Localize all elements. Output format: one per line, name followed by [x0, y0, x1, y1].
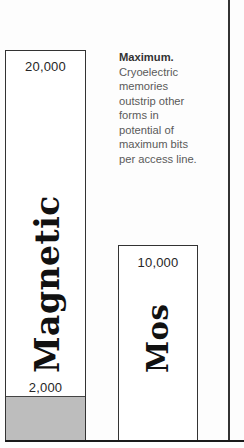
magnetic-label: Magnetic — [28, 195, 67, 373]
right-divider-line — [228, 0, 230, 441]
magnetic-min-fill — [6, 396, 85, 441]
bar-magnetic: 20,000 Magnetic 2,000 — [5, 50, 86, 441]
annotation-line: potential of — [119, 123, 227, 138]
annotation-line: per access line. — [119, 152, 227, 167]
annotation-line: maximum bits — [119, 137, 227, 152]
annotation-line: memories — [119, 79, 227, 94]
annotation-line: Cryoelectric — [119, 65, 227, 80]
bar-mos: 10,000 Mos — [118, 245, 198, 441]
annotation-heading: Maximum. — [119, 50, 227, 65]
magnetic-max-value: 20,000 — [6, 59, 85, 74]
annotation: Maximum. Cryoelectric memories outstrip … — [119, 50, 227, 166]
mos-max-value: 10,000 — [119, 255, 197, 270]
magnetic-min-value: 2,000 — [6, 380, 85, 395]
baseline-axis — [5, 440, 244, 442]
annotation-line: forms in — [119, 108, 227, 123]
annotation-line: outstrip other — [119, 94, 227, 109]
mos-label: Mos — [141, 304, 175, 373]
